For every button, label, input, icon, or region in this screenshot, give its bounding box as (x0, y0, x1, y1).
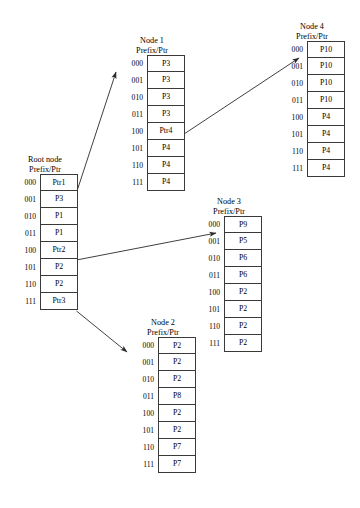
prefix-label: 010 (279, 75, 307, 92)
node-2-header: Prefix/Ptr (130, 328, 196, 338)
node-2-title: Node 2 (130, 318, 196, 328)
node-4: Node 4 Prefix/Ptr 000 P10 001 P10 010 P1… (279, 22, 345, 177)
prefix-label: 010 (130, 371, 158, 388)
prefix-label: 100 (12, 242, 40, 259)
prefix-label: 111 (119, 174, 147, 191)
table-row: 100 P2 (130, 405, 196, 422)
node-4-entry-110: P4 (307, 143, 345, 160)
table-row: 000 P9 (196, 216, 262, 233)
prefix-label: 110 (130, 439, 158, 456)
table-row: 001 P10 (279, 58, 345, 75)
table-row: 010 P6 (196, 250, 262, 267)
node-1-entry-011: P3 (147, 106, 185, 123)
node-2-entry-110: P7 (158, 439, 196, 456)
prefix-label: 110 (279, 143, 307, 160)
table-row: 111 P4 (119, 174, 185, 191)
table-row: 110 P7 (130, 439, 196, 456)
node-1-title: Node 1 (119, 36, 185, 46)
node-root: Root node Prefix/Ptr 000 Ptr1 001 P3 010… (12, 155, 78, 310)
node-4-entry-011: P10 (307, 92, 345, 109)
table-row: 110 P2 (12, 276, 78, 293)
table-row: 100 Ptr4 (119, 123, 185, 140)
node-root-entry-010: P1 (40, 208, 78, 225)
table-row: 111 P2 (196, 335, 262, 352)
table-row: 111 P4 (279, 160, 345, 177)
table-row: 011 P10 (279, 92, 345, 109)
node-root-entry-101: P2 (40, 259, 78, 276)
table-row: 100 P4 (279, 109, 345, 126)
table-row: 100 P2 (196, 284, 262, 301)
prefix-label: 001 (119, 72, 147, 89)
node-4-entry-100: P4 (307, 109, 345, 126)
node-4-header: Prefix/Ptr (279, 32, 345, 42)
node-3-title: Node 3 (196, 197, 262, 207)
node-2: Node 2 Prefix/Ptr 000 P2 001 P2 010 P2 0… (130, 318, 196, 473)
node-3-entry-000: P9 (224, 216, 262, 233)
node-3-header: Prefix/Ptr (196, 207, 262, 217)
prefix-label: 110 (119, 157, 147, 174)
node-2-body: 000 P2 001 P2 010 P2 011 P8 100 P2 101 P… (130, 337, 196, 473)
node-root-entry-111: Ptr3 (40, 293, 78, 310)
node-3-entry-101: P2 (224, 301, 262, 318)
prefix-label: 111 (12, 293, 40, 310)
table-row: 011 P8 (130, 388, 196, 405)
prefix-label: 110 (12, 276, 40, 293)
prefix-label: 011 (279, 92, 307, 109)
node-2-entry-101: P2 (158, 422, 196, 439)
table-row: 010 P10 (279, 75, 345, 92)
prefix-label: 001 (196, 233, 224, 250)
node-4-entry-000: P10 (307, 41, 345, 58)
table-row: 101 P2 (12, 259, 78, 276)
link-root-ptr1-to-node1 (77, 72, 117, 193)
node-2-entry-010: P2 (158, 371, 196, 388)
table-row: 101 P2 (130, 422, 196, 439)
node-4-title: Node 4 (279, 22, 345, 32)
prefix-label: 100 (196, 284, 224, 301)
node-3-entry-110: P2 (224, 318, 262, 335)
prefix-label: 011 (12, 225, 40, 242)
prefix-label: 100 (279, 109, 307, 126)
table-row: 011 P6 (196, 267, 262, 284)
link-root-ptr3-to-node2 (77, 311, 128, 352)
table-row: 111 P7 (130, 456, 196, 473)
table-row: 110 P4 (279, 143, 345, 160)
prefix-label: 000 (279, 41, 307, 58)
prefix-label: 001 (130, 354, 158, 371)
node-1-entry-010: P3 (147, 89, 185, 106)
table-row: 011 P1 (12, 225, 78, 242)
table-row: 111 Ptr3 (12, 293, 78, 310)
prefix-label: 010 (12, 208, 40, 225)
prefix-label: 101 (196, 301, 224, 318)
prefix-label: 101 (119, 140, 147, 157)
table-row: 100 Ptr2 (12, 242, 78, 259)
prefix-label: 101 (279, 126, 307, 143)
prefix-label: 000 (130, 337, 158, 354)
node-root-header: Prefix/Ptr (12, 165, 78, 175)
node-root-body: 000 Ptr1 001 P3 010 P1 011 P1 100 Ptr2 1… (12, 174, 78, 310)
table-row: 000 Ptr1 (12, 174, 78, 191)
node-3: Node 3 Prefix/Ptr 000 P9 001 P5 010 P6 0… (196, 197, 262, 352)
table-row: 110 P4 (119, 157, 185, 174)
node-2-entry-000: P2 (158, 337, 196, 354)
node-root-entry-110: P2 (40, 276, 78, 293)
prefix-label: 111 (196, 335, 224, 352)
node-root-entry-100: Ptr2 (40, 242, 78, 259)
table-row: 101 P2 (196, 301, 262, 318)
table-row: 000 P3 (119, 55, 185, 72)
prefix-label: 101 (130, 422, 158, 439)
table-row: 001 P3 (12, 191, 78, 208)
trie-diagram: Root node Prefix/Ptr 000 Ptr1 001 P3 010… (0, 0, 360, 508)
node-2-entry-100: P2 (158, 405, 196, 422)
prefix-label: 111 (130, 456, 158, 473)
table-row: 011 P3 (119, 106, 185, 123)
node-2-entry-001: P2 (158, 354, 196, 371)
node-1: Node 1 Prefix/Ptr 000 P3 001 P3 010 P3 0… (119, 36, 185, 191)
node-3-body: 000 P9 001 P5 010 P6 011 P6 100 P2 101 P… (196, 216, 262, 352)
prefix-label: 101 (12, 259, 40, 276)
node-root-title: Root node (12, 155, 78, 165)
prefix-label: 011 (196, 267, 224, 284)
node-1-entry-100: Ptr4 (147, 123, 185, 140)
prefix-label: 100 (130, 405, 158, 422)
node-root-entry-001: P3 (40, 191, 78, 208)
table-row: 010 P2 (130, 371, 196, 388)
